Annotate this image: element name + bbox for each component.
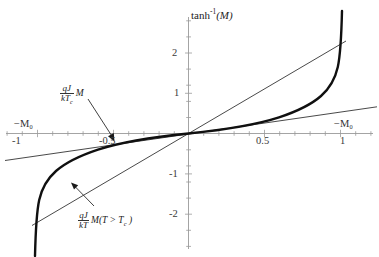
plot-canvas: [0, 0, 379, 257]
y-tick-label-neg1: -1: [169, 169, 178, 180]
m0-label-right: −M₀: [334, 119, 353, 130]
y-tick-label-neg2: -2: [169, 209, 178, 220]
annotation-tail-t: M(T > Tc ): [89, 216, 132, 226]
plot-title: tanh-1(M): [191, 10, 233, 21]
annotation-arrow-t: [71, 182, 94, 206]
annotation-label-qj-kt: qJ kT M(T > Tc ): [78, 211, 132, 231]
fraction-denominator: kT: [78, 220, 89, 230]
x-tick-label-0-5: 0.5: [256, 136, 269, 147]
m0-label-left: −M₀: [14, 119, 33, 130]
y-tick-label-2: 2: [172, 48, 177, 59]
fraction-numerator: qJ: [78, 211, 89, 220]
x-tick-label-neg0-5: -0.5: [99, 136, 116, 147]
x-tick-label-neg1: -1: [12, 136, 21, 147]
fraction-numerator: qJ: [60, 84, 74, 93]
annotation-tail-tc: M: [74, 89, 84, 99]
fraction-denominator: kTc: [60, 93, 74, 103]
y-tick-label-1: 1: [174, 88, 179, 99]
fraction-qj-kt: qJ kT: [78, 211, 89, 231]
fraction-qj-ktc: qJ kTc: [60, 84, 74, 104]
annotation-label-qj-ktc: qJ kTc M: [60, 84, 84, 104]
x-tick-label-1: 1: [340, 136, 345, 147]
title-fn: tanh: [191, 9, 210, 21]
title-argument: (M): [216, 9, 233, 21]
